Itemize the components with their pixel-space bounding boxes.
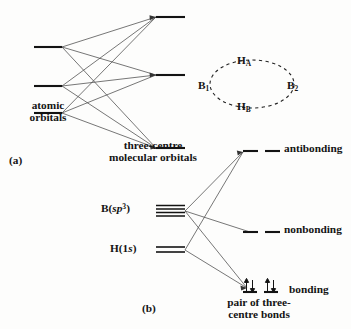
cluster-atom-b1-subscript: 1 xyxy=(206,84,210,93)
cluster-atom-b2: B2 xyxy=(287,80,298,92)
cluster-atom-hb-symbol: H xyxy=(237,100,246,112)
hydrogen-1s-element: H xyxy=(110,242,119,254)
hydrogen-1s-orbital-lines xyxy=(156,247,185,252)
panel-b-correlation-lines xyxy=(185,152,250,288)
panel-b-arrowheads xyxy=(237,151,247,291)
panel-a-tag: (a) xyxy=(9,155,22,167)
panel-a-right-levels xyxy=(156,17,185,148)
cluster-sketch-group xyxy=(210,60,294,108)
hydrogen-1s-paren-close: ) xyxy=(133,242,137,254)
cluster-atom-ha-subscript: A xyxy=(246,59,251,68)
bonding-level-label: bonding xyxy=(289,284,329,296)
hydrogen-1s-orbital-label: H(1s) xyxy=(110,243,136,255)
panel-a-correlation-lines xyxy=(62,17,156,148)
boron-sp3-element: B xyxy=(101,202,109,214)
nonbonding-level-label: nonbonding xyxy=(284,224,342,236)
panel-a-arrowheads xyxy=(150,15,157,149)
cluster-atom-hb: HB xyxy=(237,101,251,113)
cluster-dashed-ellipse xyxy=(210,60,294,108)
boron-sp3-orbital-label: B(sp3) xyxy=(101,203,130,215)
cluster-atom-b2-subscript: 2 xyxy=(295,84,299,93)
boron-sp3-paren-close: ) xyxy=(126,202,130,214)
panel-b-tag: (b) xyxy=(142,303,156,315)
boron-sp3-hybrid: sp xyxy=(112,202,122,214)
orbital-diagram-svg xyxy=(0,0,351,329)
panel-b-group xyxy=(156,151,280,293)
atomic-orbitals-label: atomic orbitals xyxy=(9,100,87,123)
antibonding-level-label: antibonding xyxy=(284,143,342,155)
electron-arrows xyxy=(244,278,275,292)
three-centre-molecular-orbitals-label: three-centre molecular orbitals xyxy=(94,140,212,163)
cluster-atom-ha-symbol: H xyxy=(237,54,246,66)
electron-pair-1 xyxy=(244,278,254,292)
cluster-atom-hb-subscript: B xyxy=(246,105,251,114)
panel-a-group xyxy=(34,15,185,149)
cluster-atom-ha: HA xyxy=(237,55,251,67)
cluster-atom-b1-symbol: B xyxy=(198,79,206,91)
cluster-atom-b2-symbol: B xyxy=(287,79,295,91)
cluster-atom-b1: B1 xyxy=(198,80,209,92)
electron-pair-2 xyxy=(265,278,275,292)
figure-container: atomic orbitals three-centre molecular o… xyxy=(0,0,351,329)
boron-sp3-orbital-lines xyxy=(156,206,185,217)
pair-of-three-centre-bonds-caption: pair of three- centre bonds xyxy=(203,297,315,320)
